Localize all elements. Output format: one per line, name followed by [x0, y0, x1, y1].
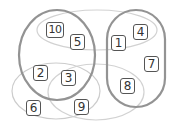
node-10[interactable]: 10	[46, 22, 64, 38]
node-5[interactable]: 5	[70, 34, 85, 50]
node-6[interactable]: 6	[26, 100, 41, 116]
node-4[interactable]: 4	[133, 24, 148, 40]
node-2[interactable]: 2	[33, 65, 48, 81]
node-1[interactable]: 1	[111, 35, 126, 51]
node-3[interactable]: 3	[61, 70, 76, 86]
node-8[interactable]: 8	[120, 78, 135, 94]
node-7[interactable]: 7	[144, 56, 159, 72]
node-9[interactable]: 9	[74, 99, 89, 115]
